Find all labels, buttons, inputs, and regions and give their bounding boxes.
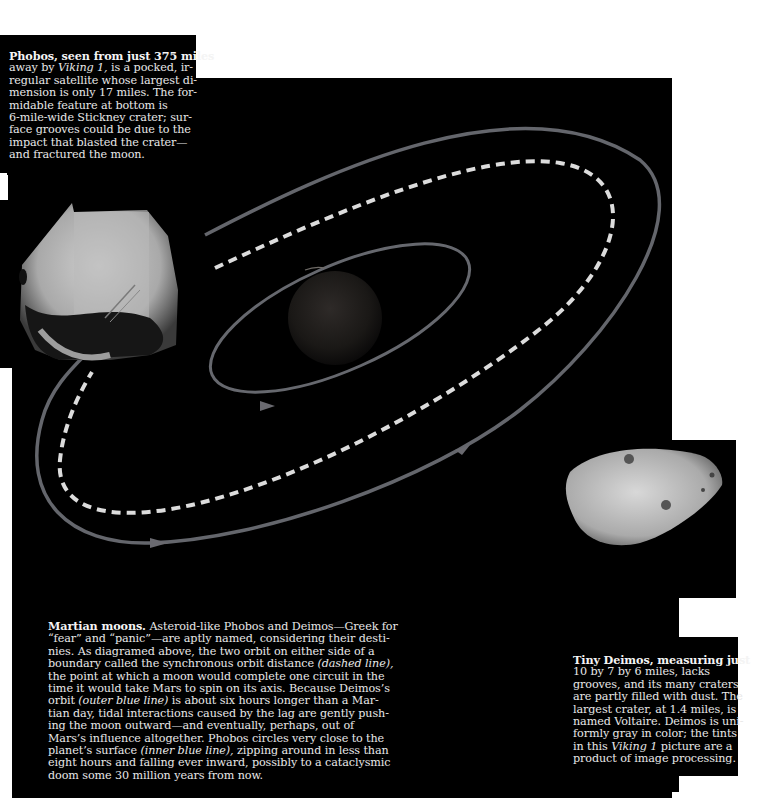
- phobos-caption-line: and fractured the moon.: [9, 149, 194, 161]
- main-caption-line: doom some 30 million years from now.: [48, 770, 518, 782]
- phobos-caption: Phobos, seen from just 375 miles away by…: [9, 50, 194, 162]
- main-caption-line: orbit (outer blue line) is about six hou…: [48, 695, 518, 707]
- main-caption-line: boundary called the synchronous orbit di…: [48, 658, 518, 670]
- deimos-caption-line: are partly filled with dust. The: [573, 691, 738, 703]
- phobos-caption-line: mension is only 17 miles. The for-: [9, 87, 194, 99]
- phobos-caption-line: away by Viking 1, is a pocked, ir-: [9, 62, 194, 74]
- mars-globe: [288, 271, 382, 365]
- main-caption-lead: Martian moons.: [48, 619, 146, 633]
- main-caption-line: eight hours and falling ever inward, pos…: [48, 757, 518, 769]
- main-caption-line: ing the moon outward—and eventually, per…: [48, 720, 518, 732]
- deimos-caption-line: product of image processing.: [573, 753, 738, 765]
- deimos-image: [566, 449, 722, 545]
- main-caption-line: “fear” and “panic”—are aptly named, cons…: [48, 633, 518, 645]
- inner-orbit-arrow-icon: [260, 401, 275, 411]
- deimos-caption: Tiny Deimos, measuring just 10 by 7 by 6…: [573, 654, 738, 766]
- deimos-caption-line: 10 by 7 by 6 miles, lacks: [573, 666, 738, 678]
- main-caption: Martian moons. Asteroid-like Phobos and …: [48, 620, 518, 782]
- phobos-image: [19, 203, 178, 360]
- phobos-caption-line: face grooves could be due to the: [9, 124, 194, 136]
- outer-orbit-arrow-icon: [150, 538, 168, 548]
